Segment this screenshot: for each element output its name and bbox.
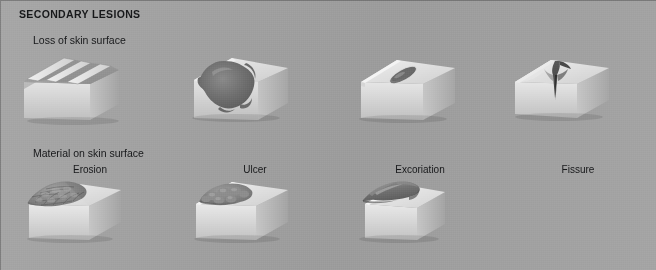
fissure-skin-block-icon [503, 48, 653, 128]
lesion-item-ulcer: Ulcer [180, 48, 330, 138]
ulcer-skin-block-icon [180, 48, 330, 128]
secondary-lesions-figure: SECONDARY LESIONS Loss of skin surface M… [0, 0, 656, 270]
lesion-item-erosion: Erosion [15, 48, 165, 138]
group-label-material-on-skin-surface: Material on skin surface [33, 147, 144, 159]
lesion-item-scale: Scale [15, 168, 165, 258]
lesion-item-fissure: Fissure [503, 48, 653, 138]
lesion-item-crust: Crust [180, 168, 330, 258]
lesion-item-excoriation: Excoriation [345, 48, 495, 138]
lesion-caption-fissure: Fissure [503, 164, 653, 175]
page-title: SECONDARY LESIONS [19, 8, 140, 20]
crust-skin-block-icon [180, 168, 330, 248]
erosion-skin-block-icon [15, 48, 165, 128]
scale-skin-block-icon [15, 168, 165, 248]
excoriation-skin-block-icon [345, 48, 495, 128]
group-label-loss-of-skin-surface: Loss of skin surface [33, 34, 126, 46]
keloid-skin-block-icon [345, 168, 495, 248]
lesion-item-keloid: Keloid [345, 168, 495, 258]
